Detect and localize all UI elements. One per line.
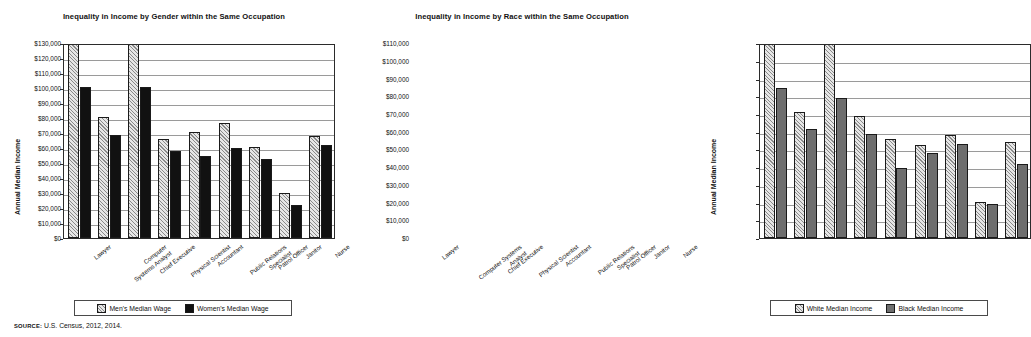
x-axis-category-label: Lawyer	[92, 243, 112, 261]
chart-panel-gender: Inequality in Income by Gender within th…	[0, 0, 348, 337]
x-axis-labels-gender: LawyerComputerSystems AnalystChief Execu…	[0, 0, 348, 337]
x-axis-label-line: Lawyer	[92, 243, 112, 261]
legend-gender: Men's Median Wage Women's Median Wage	[74, 300, 292, 316]
legend-race: White Median Income Black Median Income	[770, 300, 988, 316]
bar	[794, 112, 805, 238]
y-axis-tick-mark	[756, 133, 759, 134]
x-axis-category-label: Nurse	[681, 243, 699, 259]
legend-item: Black Median Income	[886, 304, 963, 313]
y-axis-tick-mark	[756, 97, 759, 98]
x-axis-label-line: Lawyer	[440, 243, 460, 261]
bar	[915, 145, 926, 238]
legend-label: White Median Income	[807, 305, 873, 312]
bars-race	[760, 45, 1030, 238]
y-axis-tick-mark	[756, 80, 759, 81]
bar	[1017, 164, 1028, 238]
bar	[975, 202, 986, 238]
source-note: SOURCE: U.S. Census, 2012, 2014.	[14, 322, 122, 329]
bar	[945, 135, 956, 238]
plot-area-race	[759, 44, 1031, 239]
y-axis-tick-mark	[756, 186, 759, 187]
y-axis-tick-mark	[756, 204, 759, 205]
legend-swatch-icon	[886, 304, 895, 313]
x-axis-category-label: Lawyer	[440, 243, 460, 261]
bar	[824, 44, 835, 238]
y-axis-tick-mark	[756, 150, 759, 151]
x-axis-labels-race: LawyerComputer SystemsAnalystChief Execu…	[348, 0, 696, 337]
bar	[1005, 142, 1016, 238]
x-axis-label-line: Nurse	[681, 243, 699, 259]
bar	[885, 139, 896, 238]
source-label: SOURCE:	[14, 323, 42, 329]
legend-label: Women's Median Wage	[197, 305, 269, 312]
y-axis-tick-mark	[756, 115, 759, 116]
bar	[776, 88, 787, 238]
bar	[896, 168, 907, 238]
legend-item: Men's Median Wage	[97, 304, 171, 313]
y-axis-tick-mark	[756, 221, 759, 222]
legend-item: Women's Median Wage	[185, 304, 269, 313]
source-text: U.S. Census, 2012, 2014.	[44, 322, 122, 329]
legend-swatch-icon	[795, 304, 804, 313]
y-axis-tick-mark	[756, 168, 759, 169]
chart-panel-race: Inequality in Income by Race within the …	[348, 0, 696, 337]
bar	[987, 204, 998, 238]
bar	[854, 116, 865, 238]
legend-swatch-icon	[97, 304, 106, 313]
legend-label: Men's Median Wage	[109, 305, 171, 312]
y-axis-tick-mark	[756, 62, 759, 63]
legend-item: White Median Income	[795, 304, 873, 313]
bar	[806, 129, 817, 238]
y-axis-tick-mark	[756, 44, 759, 45]
bar	[957, 144, 968, 238]
bar	[836, 98, 847, 238]
bar	[764, 44, 775, 238]
legend-swatch-icon	[185, 304, 194, 313]
legend-label: Black Median Income	[898, 305, 963, 312]
bar	[866, 134, 877, 238]
y-axis-tick-mark	[756, 239, 759, 240]
y-axis-title-race: Annual Median Income	[710, 139, 717, 215]
bar	[927, 153, 938, 238]
